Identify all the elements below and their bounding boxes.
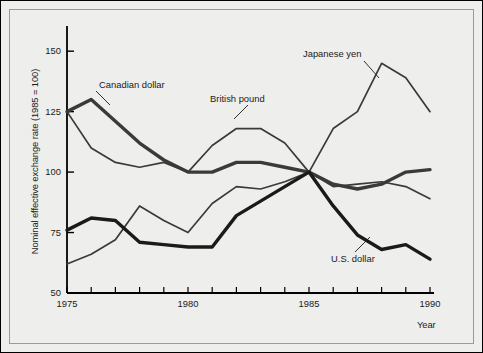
- x-axis-title: Year: [417, 319, 436, 330]
- y-axis-title: Nominal effective exchange rate (1985 = …: [29, 31, 40, 293]
- annotation-us-dollar: U.S. dollar: [331, 253, 375, 264]
- x-tick-label: 1980: [165, 298, 211, 309]
- y-tick-label: 75: [37, 227, 61, 238]
- annotation-japanese-yen: Japanese yen: [303, 48, 361, 59]
- x-tick-label: 1990: [407, 298, 453, 309]
- leader-line-japanese-yen: [364, 61, 379, 78]
- annotation-british-pound: British pound: [210, 93, 265, 104]
- annotation-canadian-dollar: Canadian dollar: [99, 79, 165, 90]
- series-line-canadian-dollar: [67, 100, 430, 189]
- leader-line-canadian-dollar: [96, 91, 110, 105]
- x-tick-label: 1975: [44, 298, 90, 309]
- leader-line-british-pound: [234, 105, 248, 119]
- y-tick-label: 150: [37, 45, 61, 56]
- y-tick-label: 50: [37, 287, 61, 298]
- y-tick-label: 100: [37, 166, 61, 177]
- x-tick-label: 1985: [286, 298, 332, 309]
- y-tick-label: 125: [37, 106, 61, 117]
